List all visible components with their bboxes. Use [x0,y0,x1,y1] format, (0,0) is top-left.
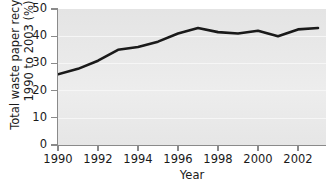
x-tick-mark-2000 [257,146,258,151]
y-tick-label-0: 0 [7,139,47,150]
x-tick-label-1994: 1994 [118,153,158,165]
x-tick-label-2002: 2002 [278,153,318,165]
plot-area [58,9,326,145]
y-axis-line [57,8,58,146]
y-tick-label-20: 20 [7,85,47,96]
x-tick-mark-1996 [177,146,178,151]
y-tick-label-10: 10 [7,112,47,123]
x-tick-label-1992: 1992 [78,153,118,165]
data-line-series [58,9,326,145]
x-tick-label-1998: 1998 [198,153,238,165]
x-tick-label-1996: 1996 [158,153,198,165]
x-tick-label-1990: 1990 [38,153,78,165]
x-axis-title: Year [58,168,326,182]
y-tick-label-50: 50 [7,3,47,14]
x-tick-mark-1992 [97,146,98,151]
x-tick-mark-1998 [217,146,218,151]
y-tick-label-40: 40 [7,30,47,41]
x-tick-mark-1994 [137,146,138,151]
x-tick-mark-2002 [297,146,298,151]
x-tick-mark-1990 [57,146,58,151]
line-chart: Total waste paper recycled, 1990 to 2003… [0,0,330,185]
x-tick-label-2000: 2000 [238,153,278,165]
y-tick-label-30: 30 [7,57,47,68]
